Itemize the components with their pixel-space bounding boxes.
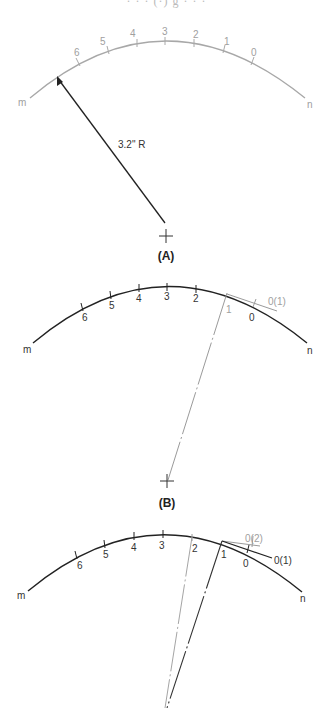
tick-label-2: 2 (193, 293, 199, 304)
panel-a: 6 5 4 3 2 1 0 m n 3.2" R (A) (18, 26, 313, 263)
panel-caption-a: (A) (158, 249, 175, 263)
end-label-m: m (23, 344, 31, 355)
tick-label-0: 0 (249, 312, 255, 323)
panel-b: 6 5 4 3 2 1 0 0(1) m n (B) (23, 283, 313, 510)
end-label-n: n (307, 99, 313, 110)
tick-label-4: 4 (136, 293, 142, 304)
tick-label-6: 6 (82, 312, 88, 323)
tick-marks (75, 530, 163, 559)
center-cross-icon (159, 229, 173, 243)
end-label-m: m (18, 97, 26, 108)
end-label-m: m (17, 590, 25, 601)
tick-label-0: 0 (251, 47, 257, 58)
tick-label-1: 1 (226, 304, 232, 315)
tick-label-6: 6 (74, 47, 80, 58)
tick-label-0: 0 (243, 558, 249, 569)
tick-label-6: 6 (77, 560, 83, 571)
tick-label-1: 1 (221, 549, 227, 560)
end-label-n: n (307, 345, 313, 356)
tick-label-3: 3 (159, 540, 165, 551)
tangent-label-0-2: 0(2) (245, 533, 263, 544)
tick-label-2: 2 (193, 29, 199, 40)
panel-caption-b: (B) (159, 496, 176, 510)
tick-label-2: 2 (192, 543, 198, 554)
tick-label-5: 5 (109, 300, 115, 311)
tangent-label: 0(1) (268, 296, 286, 307)
tick-label-3: 3 (164, 291, 170, 302)
construction-line-1 (167, 541, 222, 708)
radius-label: 3.2" R (118, 139, 145, 150)
step-chord (168, 293, 227, 480)
panel-c: 6 5 4 3 2 1 0 0(2) 0(1) m n (17, 530, 306, 708)
tick-label-3: 3 (162, 26, 168, 37)
tick-label-4: 4 (131, 542, 137, 553)
arc-mn (30, 41, 305, 98)
end-label-n: n (300, 593, 306, 604)
arc-step-off-diagram: 6 5 4 3 2 1 0 m n 3.2" R (A) 6 5 4 (0, 0, 333, 708)
tick-label-1: 1 (224, 36, 230, 47)
arc-mn (33, 287, 307, 344)
tick-label-5: 5 (103, 549, 109, 560)
tangent-label-0-1: 0(1) (274, 555, 292, 566)
tick-label-5: 5 (100, 36, 106, 47)
radius-arrow (59, 80, 165, 223)
construction-line-2 (165, 537, 192, 708)
center-cross-icon (160, 474, 174, 488)
tick-label-4: 4 (130, 28, 136, 39)
